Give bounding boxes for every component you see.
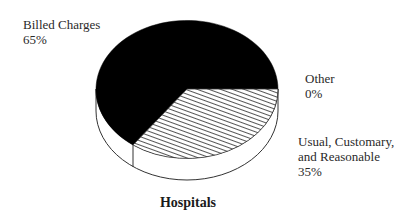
label-other: Other 0% <box>305 71 335 101</box>
label-ucr-line1: Usual, Customary, <box>298 134 394 149</box>
label-billed-charges-value: 65% <box>23 32 100 47</box>
label-other-value: 0% <box>305 86 335 101</box>
label-ucr-line2: and Reasonable <box>298 149 394 164</box>
label-other-name: Other <box>305 71 335 86</box>
label-ucr-value: 35% <box>298 164 394 179</box>
label-billed-charges-name: Billed Charges <box>23 17 100 32</box>
chart-title: Hospitals <box>0 195 376 211</box>
label-billed-charges: Billed Charges 65% <box>23 17 100 47</box>
label-ucr: Usual, Customary, and Reasonable 35% <box>298 134 394 179</box>
